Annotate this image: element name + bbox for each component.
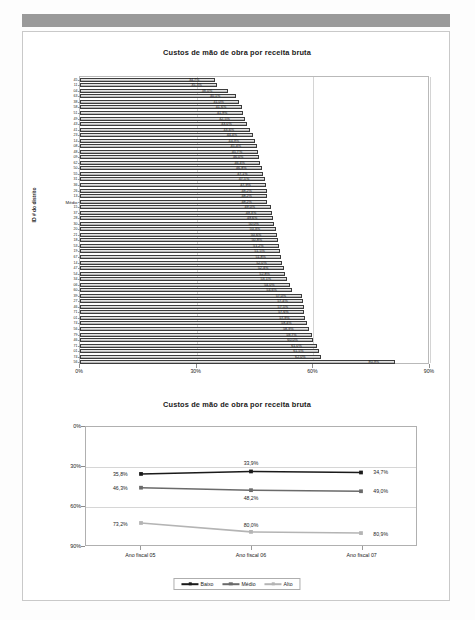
line-series-marker — [249, 530, 253, 534]
bar-chart-y-tick-label: 21 — [74, 233, 78, 237]
bar-chart-y-tick-mark — [78, 135, 80, 136]
bar — [80, 255, 281, 259]
bar-chart-y-tick-mark — [78, 296, 80, 297]
bar-chart-y-tick-mark — [78, 301, 80, 302]
bar — [80, 216, 273, 220]
bar — [80, 283, 290, 287]
bar-chart-y-tick-mark — [78, 329, 80, 330]
bar-chart-y-tick-mark — [78, 157, 80, 158]
bar — [80, 183, 266, 187]
bar-chart-y-tick-mark — [78, 96, 80, 97]
bar-chart-y-tick-mark — [78, 113, 80, 114]
bar-chart-y-tick-mark — [78, 240, 80, 241]
bar — [80, 333, 312, 337]
bar-value-label: 53,1% — [261, 277, 271, 281]
bar-chart: Custos de mão de obra por receita bruta … — [23, 32, 451, 387]
bar-chart-y-tick-label: 20 — [74, 227, 78, 231]
bar-chart-y-tick-mark — [78, 318, 80, 319]
legend-label: Baixo — [200, 581, 213, 587]
bar-value-label: 40,1% — [210, 94, 220, 98]
bar-chart-y-tick-label: 13 — [74, 194, 78, 198]
line-chart-y-tick-mark — [81, 426, 85, 427]
bar-chart-x-tick-label: 0% — [75, 368, 83, 374]
bar-chart-y-tick-mark — [78, 213, 80, 214]
bar — [80, 244, 279, 248]
bar-value-label: 57,9% — [279, 316, 289, 320]
bar — [80, 338, 313, 342]
bar-value-label: 43,6% — [224, 128, 234, 132]
bar-chart-y-tick-label: 01 — [74, 316, 78, 320]
line-point-label: 49,0% — [373, 488, 388, 494]
legend-item-baixo[interactable]: Baixo — [181, 581, 213, 587]
bar-chart-y-tick-mark — [78, 80, 80, 81]
bar-chart-y-tick-mark — [78, 257, 80, 258]
bar-value-label: 51,8% — [255, 255, 265, 259]
bar-value-label: 51,5% — [254, 249, 264, 253]
line-point-label: 80,0% — [244, 522, 259, 528]
line-chart-legend: BaixoMédioAlto — [173, 578, 300, 590]
bar-chart-y-tick-mark — [78, 91, 80, 92]
line-chart-y-tick-mark — [81, 466, 85, 467]
bar-chart-y-tick-mark — [78, 130, 80, 131]
line-series-marker — [359, 471, 363, 475]
bar-value-label: 41,0% — [213, 100, 223, 104]
bar-value-label: 46,0% — [233, 155, 243, 159]
bar-value-label: 46,8% — [236, 166, 246, 170]
bar-value-label: 50,8% — [252, 238, 262, 242]
bar-chart-y-tick-mark — [78, 224, 80, 225]
line-chart-x-tick-label: Ano fiscal 05 — [125, 552, 155, 558]
bar-chart-y-tick-mark — [78, 285, 80, 286]
bar-chart-y-tick-mark — [78, 207, 80, 208]
bar-chart-y-tick-mark — [78, 202, 80, 203]
bar-chart-y-tick-mark — [78, 152, 80, 153]
bar — [80, 316, 305, 320]
bar-chart-y-tick-mark — [78, 191, 80, 192]
bar-chart-y-tick-label: 48 — [74, 150, 78, 154]
line-point-label: 34,7% — [373, 469, 388, 475]
line-point-label: 33,9% — [244, 460, 259, 466]
bar — [80, 261, 282, 265]
bar-chart-y-tick-label: 23 — [74, 133, 78, 137]
bar-value-label: 50,3% — [250, 227, 260, 231]
bar — [80, 205, 271, 209]
bar — [80, 288, 292, 292]
bar-chart-y-tick-mark — [78, 251, 80, 252]
legend-item-médio[interactable]: Médio — [222, 581, 255, 587]
line-series-marker — [139, 486, 143, 490]
bar — [80, 299, 303, 303]
bar-chart-y-tick-label: 30 — [74, 222, 78, 226]
bar — [80, 310, 304, 314]
legend-label: Médio — [241, 581, 255, 587]
bar-chart-y-tick-label: 31 — [74, 177, 78, 181]
bar-chart-y-tick-mark — [78, 279, 80, 280]
bar — [80, 294, 302, 298]
bar-chart-y-tick-label: 01 — [74, 349, 78, 353]
bar-chart-y-tick-label: 74 — [74, 321, 78, 325]
legend-label: Alto — [284, 581, 293, 587]
bar-value-label: 47,5% — [239, 177, 249, 181]
legend-item-alto[interactable]: Alto — [265, 581, 293, 587]
bar-value-label: 57,4% — [277, 299, 287, 303]
bar-value-label: 60,0% — [287, 338, 297, 342]
bar-chart-y-tick-label: 39 — [74, 294, 78, 298]
bar-chart-y-tick-label: 08 — [74, 144, 78, 148]
bar-chart-y-tick-label: 14 — [74, 261, 78, 265]
bar-value-label: 48,2% — [241, 189, 251, 193]
bar-chart-y-tick-label: 53 — [74, 244, 78, 248]
bar-value-label: 41,9% — [217, 111, 227, 115]
bar-value-label: 80,9% — [369, 360, 379, 364]
bar-chart-y-tick-label: 09 — [74, 155, 78, 159]
bar-chart-y-tick-label: 49 — [74, 117, 78, 121]
bar-chart-y-tick-mark — [78, 263, 80, 264]
bar-chart-y-tick-mark — [78, 218, 80, 219]
bar-value-label: 57,5% — [278, 305, 288, 309]
bar-value-label: 49,0% — [245, 205, 255, 209]
bar-chart-y-tick-mark — [78, 268, 80, 269]
bar — [80, 321, 307, 325]
bar-value-label: 49,3% — [246, 211, 256, 215]
bar-value-label: 34,7% — [189, 78, 199, 82]
line-chart-title: Custos de mão de obra por receita bruta — [23, 400, 451, 409]
line-chart-x-tick-mark — [251, 546, 252, 550]
line-series-marker — [249, 488, 253, 492]
bar-chart-y-tick-label: 46 — [74, 305, 78, 309]
